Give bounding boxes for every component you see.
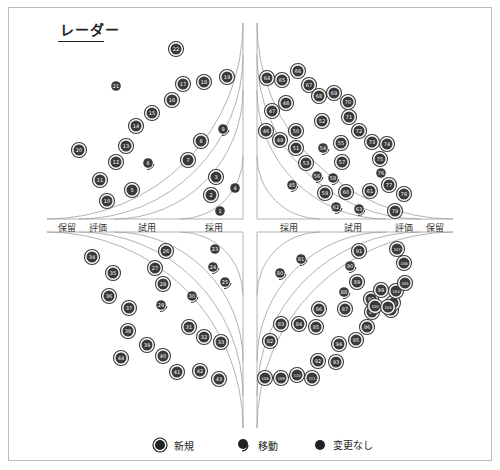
blip[interactable]: 17 bbox=[176, 77, 191, 92]
blip[interactable]: 59 bbox=[318, 186, 333, 201]
blip[interactable]: 77 bbox=[382, 178, 397, 193]
blip[interactable]: 37 bbox=[122, 301, 137, 316]
blip[interactable]: 38 bbox=[121, 324, 136, 339]
blip[interactable]: 32 bbox=[197, 330, 212, 345]
blip[interactable]: 22 bbox=[169, 42, 184, 57]
blip[interactable]: 4 bbox=[230, 183, 240, 193]
blip[interactable]: 33 bbox=[214, 335, 229, 350]
blip[interactable]: 44 bbox=[114, 351, 129, 366]
blip[interactable]: 34 bbox=[85, 250, 100, 265]
blip[interactable]: 35 bbox=[106, 266, 121, 281]
blip[interactable]: 85 bbox=[309, 320, 324, 335]
blip[interactable]: 16 bbox=[165, 93, 180, 108]
blip[interactable]: 43 bbox=[212, 372, 227, 387]
blip[interactable]: 62 bbox=[331, 202, 342, 213]
blip[interactable]: 73 bbox=[365, 135, 380, 150]
blip[interactable]: 48 bbox=[279, 96, 294, 111]
blip[interactable]: 20 bbox=[72, 143, 87, 158]
blip[interactable]: 75 bbox=[373, 152, 388, 167]
blip[interactable]: 106 bbox=[397, 256, 412, 271]
blip[interactable]: 21 bbox=[111, 81, 121, 91]
blip[interactable]: 88 bbox=[339, 287, 350, 298]
blip[interactable]: 52 bbox=[315, 114, 330, 129]
blip[interactable]: 92 bbox=[311, 354, 326, 369]
blip[interactable]: 8 bbox=[194, 134, 209, 149]
blip[interactable]: 108 bbox=[258, 371, 273, 386]
blip[interactable]: 18 bbox=[197, 75, 212, 90]
blip[interactable]: 55 bbox=[334, 136, 349, 151]
blip[interactable]: 27 bbox=[148, 261, 163, 276]
blip[interactable]: 63 bbox=[354, 204, 365, 215]
blip[interactable]: 25 bbox=[220, 277, 231, 288]
blip[interactable]: 6 bbox=[143, 158, 154, 169]
blip[interactable]: 15 bbox=[145, 106, 160, 121]
blip[interactable]: 60 bbox=[339, 185, 354, 200]
blip[interactable]: 39 bbox=[140, 338, 155, 353]
blip[interactable]: 72 bbox=[352, 124, 367, 139]
blip[interactable]: 103 bbox=[381, 300, 396, 315]
blip[interactable]: 89 bbox=[350, 275, 365, 290]
blip[interactable]: 58 bbox=[328, 173, 339, 184]
blip[interactable]: 14 bbox=[129, 119, 144, 134]
blip[interactable]: 65 bbox=[275, 73, 290, 88]
blip[interactable]: 54 bbox=[318, 143, 329, 154]
blip[interactable]: 105 bbox=[398, 276, 413, 291]
blip[interactable]: 95 bbox=[349, 333, 364, 348]
blip[interactable]: 50 bbox=[289, 124, 304, 139]
blip[interactable]: 70 bbox=[341, 95, 356, 110]
blip[interactable]: 57 bbox=[335, 155, 350, 170]
blip[interactable]: 41 bbox=[170, 365, 185, 380]
blip[interactable]: 13 bbox=[119, 139, 134, 154]
blip[interactable]: 42 bbox=[193, 364, 208, 379]
blip[interactable]: 83 bbox=[274, 317, 289, 332]
blip[interactable]: 96 bbox=[360, 320, 375, 335]
blip[interactable]: 10 bbox=[100, 194, 115, 209]
blip[interactable]: 79 bbox=[388, 204, 403, 219]
blip[interactable]: 94 bbox=[332, 337, 347, 352]
blip[interactable]: 61 bbox=[363, 184, 378, 199]
blip[interactable]: 28 bbox=[156, 277, 171, 292]
blip[interactable]: 80 bbox=[275, 268, 286, 279]
blip[interactable]: 68 bbox=[312, 89, 327, 104]
blip[interactable]: 111 bbox=[305, 371, 320, 386]
blip[interactable]: 74 bbox=[380, 137, 395, 152]
blip[interactable]: 19 bbox=[220, 70, 235, 85]
blip[interactable]: 86 bbox=[312, 302, 327, 317]
blip[interactable]: 36 bbox=[102, 289, 117, 304]
blip[interactable]: 107 bbox=[390, 242, 405, 257]
blip[interactable]: 99 bbox=[374, 283, 389, 298]
blip[interactable]: 93 bbox=[329, 355, 344, 370]
blip[interactable]: 30 bbox=[187, 291, 198, 302]
blip[interactable]: 110 bbox=[290, 368, 305, 383]
blip[interactable]: 24 bbox=[208, 262, 219, 273]
blip[interactable]: 56 bbox=[312, 171, 323, 182]
blip[interactable]: 66 bbox=[291, 64, 306, 79]
blip[interactable]: 46 bbox=[259, 124, 274, 139]
blip[interactable]: 109 bbox=[274, 371, 289, 386]
blip[interactable]: 26 bbox=[159, 244, 174, 259]
blip[interactable]: 76 bbox=[376, 168, 386, 178]
blip[interactable]: 49 bbox=[273, 133, 288, 148]
blip[interactable]: 12 bbox=[109, 155, 124, 170]
blip[interactable]: 29 bbox=[156, 300, 167, 311]
blip[interactable]: 40 bbox=[156, 349, 171, 364]
blip[interactable]: 82 bbox=[263, 334, 278, 349]
blip[interactable]: 7 bbox=[181, 153, 196, 168]
blip[interactable]: 71 bbox=[342, 110, 357, 125]
blip[interactable]: 2 bbox=[204, 188, 219, 203]
blip[interactable]: 31 bbox=[182, 320, 197, 335]
blip[interactable]: 84 bbox=[292, 317, 307, 332]
blip[interactable]: 47 bbox=[265, 104, 280, 119]
blip[interactable]: 91 bbox=[352, 244, 367, 259]
blip[interactable]: 1 bbox=[215, 206, 225, 216]
blip[interactable]: 69 bbox=[327, 86, 342, 101]
blip[interactable]: 78 bbox=[397, 187, 412, 202]
blip[interactable]: 87 bbox=[338, 302, 353, 317]
blip[interactable]: 90 bbox=[345, 261, 356, 272]
blip[interactable]: 53 bbox=[299, 156, 314, 171]
blip[interactable]: 23 bbox=[210, 244, 220, 254]
blip[interactable]: 45 bbox=[287, 180, 298, 191]
blip[interactable]: 11 bbox=[93, 173, 108, 188]
blip[interactable]: 3 bbox=[209, 170, 224, 185]
blip[interactable]: 5 bbox=[125, 183, 140, 198]
